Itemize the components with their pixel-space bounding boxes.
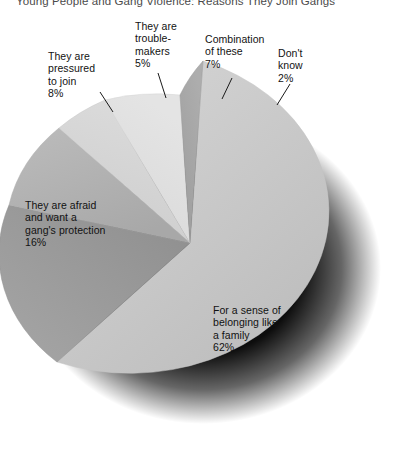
slice-label-combination: Combination of these 7% [205,33,289,70]
slice-label-dont-know: Don't know 2% [278,47,338,84]
pie-chart-figure: Young People and Gang Violence: Reasons … [0,0,398,452]
slice-label-troublemakers: They are trouble- makers 5% [135,20,209,70]
pie-stage: They are pressured to join 8% They are t… [0,0,398,452]
slice-label-afraid: They are afraid and want a gang's protec… [25,199,149,249]
leader-line-dont-know [277,84,290,105]
slice-label-pressured: They are pressured to join 8% [48,50,134,100]
slice-label-belonging: For a sense of belonging like a family 6… [213,304,337,354]
